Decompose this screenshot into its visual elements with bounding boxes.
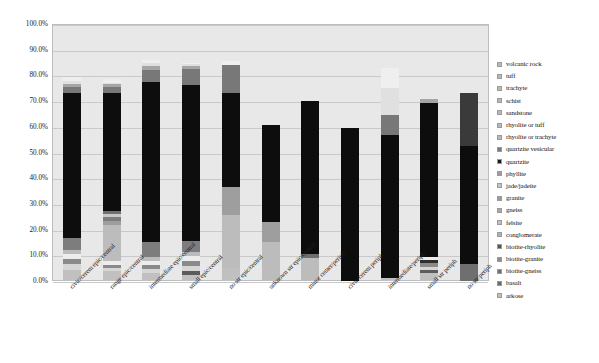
bar-segment[interactable] xyxy=(63,254,81,259)
legend-swatch-icon xyxy=(497,281,502,286)
bar-column[interactable] xyxy=(142,24,160,281)
legend-swatch-icon xyxy=(497,86,502,91)
bar-column[interactable] xyxy=(420,24,438,281)
legend-item[interactable]: phyllite xyxy=(497,168,597,180)
bar-segment[interactable] xyxy=(63,238,81,249)
bar-segment[interactable] xyxy=(142,242,160,257)
legend-item[interactable]: basalt xyxy=(497,277,597,289)
bar-segment[interactable] xyxy=(142,63,160,66)
chart-legend: volcanic rocktufftrachyteschistsandstone… xyxy=(497,58,597,302)
legend-item[interactable]: gneiss xyxy=(497,204,597,216)
bar-segment[interactable] xyxy=(103,261,121,265)
bar-segment[interactable] xyxy=(103,211,121,214)
bar-segment[interactable] xyxy=(103,84,121,87)
bar-segment[interactable] xyxy=(222,65,240,93)
bar-segment[interactable] xyxy=(301,101,319,254)
bar-segment[interactable] xyxy=(63,77,81,82)
bar-segment[interactable] xyxy=(182,64,200,66)
bar-segment[interactable] xyxy=(381,68,399,88)
legend-item-label: arkose xyxy=(506,292,523,300)
y-axis-tick-label: 100.0% xyxy=(0,20,48,28)
bar-segment[interactable] xyxy=(222,187,240,215)
bar-segment[interactable] xyxy=(222,93,240,187)
legend-item-label: sandstone xyxy=(506,109,532,117)
bar-segment[interactable] xyxy=(63,84,81,87)
legend-item[interactable]: tuff xyxy=(497,70,597,82)
bar-column[interactable] xyxy=(381,24,399,281)
bar-segment[interactable] xyxy=(103,265,121,268)
bar-segment[interactable] xyxy=(182,69,200,85)
legend-item-label: biotite-rhyolite xyxy=(506,243,545,251)
bar-segment[interactable] xyxy=(63,264,81,270)
bar-segment[interactable] xyxy=(222,215,240,268)
bar-segment[interactable] xyxy=(63,93,81,238)
bar-segment[interactable] xyxy=(262,222,280,242)
legend-item[interactable]: biotite-granite xyxy=(497,253,597,265)
bar-segment[interactable] xyxy=(420,103,438,257)
legend-item[interactable]: jade/jadeite xyxy=(497,180,597,192)
bar-segment[interactable] xyxy=(103,87,121,93)
bar-segment[interactable] xyxy=(182,63,200,65)
legend-item-label: rhyolite or trachyte xyxy=(506,133,556,141)
bar-segment[interactable] xyxy=(420,267,438,271)
legend-item[interactable]: rhyolite or trachyte xyxy=(497,131,597,143)
bar-column[interactable] xyxy=(222,24,240,281)
legend-swatch-icon xyxy=(497,147,502,152)
legend-swatch-icon xyxy=(497,123,502,128)
bar-segment[interactable] xyxy=(381,115,399,135)
bar-segment[interactable] xyxy=(103,93,121,211)
bar-segment[interactable] xyxy=(142,60,160,63)
bar-segment[interactable] xyxy=(63,259,81,264)
bar-segment[interactable] xyxy=(63,250,81,254)
bar-segment[interactable] xyxy=(103,217,121,222)
bar-segment[interactable] xyxy=(63,81,81,83)
bar-segment[interactable] xyxy=(420,263,438,267)
bar-column[interactable] xyxy=(460,24,478,281)
legend-item[interactable]: biotite-rhyolite xyxy=(497,241,597,253)
bar-segment[interactable] xyxy=(142,261,160,265)
bar-segment[interactable] xyxy=(262,125,280,223)
y-axis-tick-label: 90.0% xyxy=(0,46,48,54)
legend-item[interactable]: granite xyxy=(497,192,597,204)
bar-segment[interactable] xyxy=(103,268,121,271)
bar-segment[interactable] xyxy=(142,70,160,83)
legend-item[interactable]: rhyolite or tuff xyxy=(497,119,597,131)
legend-item[interactable]: felsite xyxy=(497,216,597,228)
bar-segment[interactable] xyxy=(103,214,121,217)
legend-item[interactable]: sandstone xyxy=(497,107,597,119)
legend-item[interactable]: trachyte xyxy=(497,82,597,94)
bar-segment[interactable] xyxy=(182,66,200,69)
legend-item[interactable]: quartzite vesicular xyxy=(497,143,597,155)
bar-column[interactable] xyxy=(341,24,359,281)
legend-item-label: trachyte xyxy=(506,84,527,92)
bar-segment[interactable] xyxy=(103,221,121,225)
legend-item[interactable]: arkose xyxy=(497,290,597,302)
y-axis-tick-label: 40.0% xyxy=(0,174,48,182)
bar-segment[interactable] xyxy=(103,79,121,82)
bar-column[interactable] xyxy=(63,24,81,281)
bar-segment[interactable] xyxy=(222,61,240,65)
bar-segment[interactable] xyxy=(182,261,200,266)
bar-segment[interactable] xyxy=(142,66,160,70)
bar-segment[interactable] xyxy=(182,85,200,241)
legend-item[interactable]: conglomerate xyxy=(497,229,597,241)
legend-swatch-icon xyxy=(497,62,502,67)
bar-segment[interactable] xyxy=(460,93,478,146)
legend-item[interactable]: biotite-gneiss xyxy=(497,265,597,277)
bar-segment[interactable] xyxy=(142,82,160,241)
bar-column[interactable] xyxy=(262,24,280,281)
legend-item[interactable]: schist xyxy=(497,95,597,107)
bar-series-container xyxy=(52,24,489,281)
legend-swatch-icon xyxy=(497,232,502,237)
bar-segment[interactable] xyxy=(420,260,438,263)
bar-segment[interactable] xyxy=(63,87,81,94)
bar-segment[interactable] xyxy=(420,99,438,103)
bar-segment[interactable] xyxy=(182,266,200,271)
bar-segment[interactable] xyxy=(142,265,160,269)
legend-item[interactable]: quartzite xyxy=(497,156,597,168)
bar-segment[interactable] xyxy=(460,146,478,264)
bar-segment[interactable] xyxy=(381,88,399,115)
legend-item[interactable]: volcanic rock xyxy=(497,58,597,70)
bar-segment[interactable] xyxy=(103,83,121,85)
legend-swatch-icon xyxy=(497,257,502,262)
